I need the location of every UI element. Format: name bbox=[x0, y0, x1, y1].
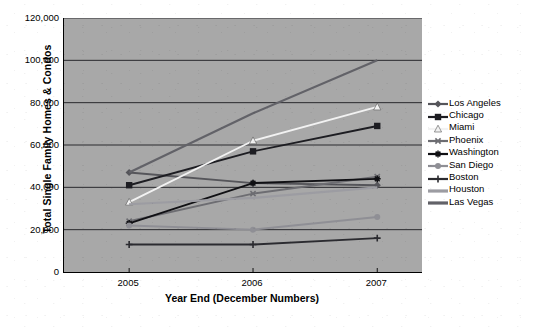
legend-item-houston[interactable]: Houston bbox=[427, 183, 535, 195]
legend-label: Las Vegas bbox=[449, 196, 493, 207]
data-point-marker bbox=[374, 123, 380, 129]
legend-marker-icon bbox=[427, 158, 449, 170]
data-point-marker bbox=[250, 227, 256, 233]
legend-marker-icon bbox=[427, 96, 449, 108]
data-point-marker bbox=[250, 180, 257, 187]
data-point-marker bbox=[435, 113, 441, 119]
plot-area bbox=[63, 18, 422, 273]
legend-item-miami[interactable]: Miami bbox=[427, 121, 535, 133]
data-point-marker bbox=[374, 214, 380, 220]
series-houston bbox=[129, 187, 377, 204]
legend-marker-icon bbox=[427, 133, 449, 145]
data-point-marker bbox=[126, 222, 132, 228]
series-boston bbox=[126, 235, 381, 248]
legend-label: Los Angeles bbox=[449, 97, 501, 108]
chart-legend: Los AngelesChicagoMiamiPhoenixWashington… bbox=[427, 96, 535, 208]
x-tick-label: 2007 bbox=[346, 277, 406, 288]
legend-marker-icon bbox=[427, 171, 449, 183]
y-tick-label: 20,000 bbox=[7, 225, 59, 235]
x-tick-label: 2006 bbox=[222, 277, 282, 288]
data-point-marker bbox=[374, 175, 381, 182]
legend-item-washington[interactable]: Washington bbox=[427, 146, 535, 158]
y-tick-label: 100,000 bbox=[7, 55, 59, 65]
y-tick-label: 0 bbox=[7, 267, 59, 277]
y-tick-label: 120,000 bbox=[7, 13, 59, 23]
y-tick-label: 40,000 bbox=[7, 182, 59, 192]
data-point-marker bbox=[250, 241, 257, 248]
plot-series-svg bbox=[64, 18, 422, 272]
y-axis-tick-labels: 020,00040,00060,00080,000100,000120,000 bbox=[3, 0, 59, 328]
legend-label: Boston bbox=[449, 171, 479, 182]
data-point-marker bbox=[435, 163, 441, 169]
legend-item-chicago[interactable]: Chicago bbox=[427, 108, 535, 120]
legend-item-phoenix[interactable]: Phoenix bbox=[427, 133, 535, 145]
y-tick-label: 60,000 bbox=[7, 140, 59, 150]
line-chart: Total Single Family Homes & Condos 020,0… bbox=[0, 0, 535, 328]
data-point-marker bbox=[435, 150, 442, 157]
data-point-marker bbox=[126, 182, 132, 188]
x-axis-tick-labels: 200520062007 bbox=[63, 277, 421, 291]
legend-label: Houston bbox=[449, 183, 484, 194]
legend-item-san-diego[interactable]: San Diego bbox=[427, 158, 535, 170]
legend-item-las-vegas[interactable]: Las Vegas bbox=[427, 195, 535, 207]
data-point-marker bbox=[374, 235, 381, 242]
legend-marker-icon bbox=[427, 195, 449, 207]
data-point-marker bbox=[126, 241, 133, 248]
legend-item-los-angeles[interactable]: Los Angeles bbox=[427, 96, 535, 108]
legend-item-boston[interactable]: Boston bbox=[427, 170, 535, 182]
series-washington bbox=[126, 175, 381, 226]
data-point-marker bbox=[374, 103, 381, 110]
legend-label: Miami bbox=[449, 121, 474, 132]
legend-marker-icon bbox=[427, 183, 449, 195]
x-tick-label: 2005 bbox=[98, 277, 158, 288]
data-point-marker bbox=[434, 101, 441, 108]
legend-marker-icon bbox=[427, 109, 449, 121]
legend-marker-icon bbox=[427, 146, 449, 158]
data-point-marker bbox=[250, 148, 256, 154]
legend-label: San Diego bbox=[449, 159, 493, 170]
legend-marker-icon bbox=[427, 121, 449, 133]
x-axis-title: Year End (December Numbers) bbox=[63, 292, 421, 304]
series-line bbox=[129, 187, 377, 204]
data-point-marker bbox=[435, 175, 442, 182]
legend-label: Chicago bbox=[449, 109, 484, 120]
legend-label: Washington bbox=[449, 146, 499, 157]
legend-label: Phoenix bbox=[449, 134, 483, 145]
y-tick-label: 80,000 bbox=[7, 98, 59, 108]
